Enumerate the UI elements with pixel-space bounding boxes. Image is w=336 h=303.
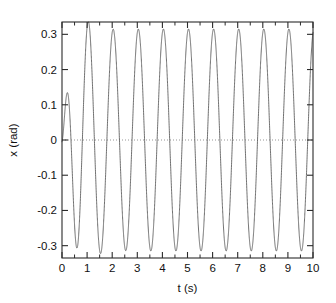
x-tick-label: 9: [285, 262, 291, 274]
x-tick-label: 1: [84, 262, 90, 274]
x-tick-label: 8: [260, 262, 266, 274]
y-tick-label: 0: [51, 134, 57, 146]
y-tick-label: 0.2: [41, 64, 57, 76]
y-tick-label: 0.1: [41, 99, 57, 111]
y-tick-label: -0.1: [37, 169, 57, 181]
y-tick-label: -0.3: [37, 240, 57, 252]
x-tick-label: 4: [159, 262, 166, 274]
y-tick-label: 0.3: [41, 28, 57, 40]
x-tick-label: 10: [307, 262, 320, 274]
x-tick-label: 2: [109, 262, 115, 274]
x-tick-label: 7: [234, 262, 240, 274]
x-tick-label: 0: [59, 262, 65, 274]
x-axis-title: t (s): [178, 282, 198, 294]
x-tick-label: 5: [184, 262, 190, 274]
chart-figure: 012345678910 -0.3-0.2-0.100.10.20.3 t (s…: [0, 0, 336, 303]
x-tick-label: 3: [134, 262, 140, 274]
y-axis-title: x (rad): [7, 123, 19, 156]
x-tick-label: 6: [209, 262, 215, 274]
y-tick-label: -0.2: [37, 204, 57, 216]
oscillation-line-chart: 012345678910 -0.3-0.2-0.100.10.20.3 t (s…: [0, 0, 336, 303]
